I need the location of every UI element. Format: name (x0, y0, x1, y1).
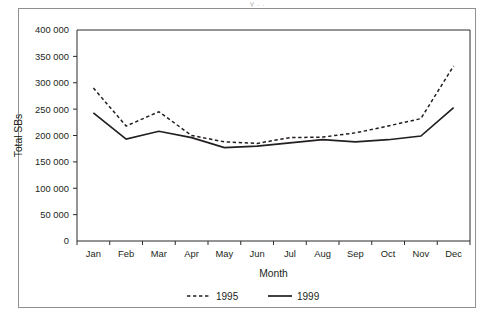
x-axis-tick-label: Dec (445, 248, 462, 259)
y-axis-tick-label: 150 000 (35, 156, 69, 167)
x-axis-tick-label: Jan (86, 248, 101, 259)
x-axis-tick-label: Feb (118, 248, 134, 259)
x-axis-tick-label: Sep (347, 248, 364, 259)
x-axis-title: Month (259, 268, 288, 279)
x-axis-tick-label: Jun (250, 248, 265, 259)
series-line-1995 (93, 66, 453, 144)
y-axis-tick-label: 100 000 (35, 183, 69, 194)
x-axis-tick-label: May (216, 248, 234, 259)
legend-label-1995: 1995 (216, 291, 239, 302)
x-axis-tick-label: Mar (151, 248, 167, 259)
x-axis-tick-label: Oct (381, 248, 396, 259)
x-axis-tick-label: Jul (284, 248, 296, 259)
data-series-group (93, 66, 453, 148)
x-axis-tick-label: Aug (314, 248, 331, 259)
series-line-1999 (93, 108, 453, 148)
plot-area-frame (77, 30, 470, 241)
y-axis-tick-label: 250 000 (35, 104, 69, 115)
y-axis-title: Total SBs (13, 114, 24, 158)
y-axis-tick-label: 350 000 (35, 51, 69, 62)
y-axis-tick-label: 400 000 (35, 24, 69, 35)
x-axis-tick-label: Nov (413, 248, 430, 259)
y-axis-tick-label: 300 000 (35, 77, 69, 88)
line-chart-plot: 050 000100 000150 000200 000250 000300 0… (0, 0, 494, 319)
y-axis-tick-label: 0 (64, 235, 69, 246)
x-axis-tick-label: Apr (184, 248, 199, 259)
y-axis-tick-label: 50 000 (40, 209, 69, 220)
legend-label-1999: 1999 (297, 291, 320, 302)
y-axis-tick-label: 200 000 (35, 130, 69, 141)
y-axis: 050 000100 000150 000200 000250 000300 0… (35, 24, 470, 246)
chart-legend: 19951999 (187, 291, 320, 302)
x-axis: JanFebMarAprMayJunJulAugSepOctNovDec (77, 241, 470, 259)
chart-figure: y . . 050 000100 000150 000200 000250 00… (0, 0, 494, 319)
